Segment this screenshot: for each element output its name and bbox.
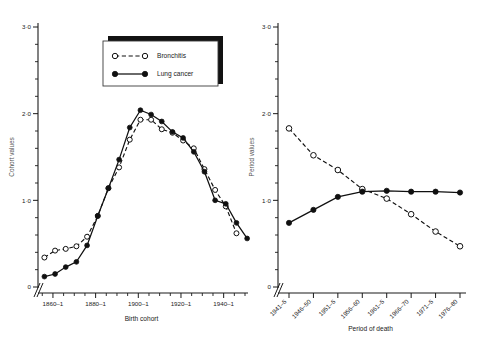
right-bronchitis-marker xyxy=(384,196,390,202)
left-x-tick-label: 1860–1 xyxy=(43,300,64,307)
left-y-tick-label: 2·0 xyxy=(22,110,32,117)
left-bronchitis-marker xyxy=(63,246,68,251)
right-lung-cancer-line xyxy=(289,191,460,223)
left-lung-cancer-marker xyxy=(42,274,47,279)
right-x-axis-title: Period of death xyxy=(348,325,393,332)
left-lung-cancer-marker xyxy=(245,236,250,241)
right-axis-break-mark xyxy=(274,283,280,297)
left-bronchitis-marker xyxy=(74,244,79,249)
left-lung-cancer-marker xyxy=(202,169,207,174)
right-y-tick-label: 1·0 xyxy=(262,197,272,204)
right-lung-cancer-marker xyxy=(311,207,316,212)
left-lung-cancer-marker xyxy=(53,272,58,277)
left-x-tick-label: 1880–1 xyxy=(85,300,106,307)
right-lung-cancer-marker xyxy=(433,189,438,194)
left-bronchitis-marker xyxy=(85,234,90,239)
left-lung-cancer-marker xyxy=(85,243,90,248)
left-bronchitis-marker xyxy=(213,187,218,192)
left-bronchitis-marker xyxy=(127,137,132,142)
left-lung-cancer-marker xyxy=(117,157,122,162)
left-bronchitis-line xyxy=(44,120,236,258)
right-bronchitis-marker xyxy=(433,229,439,235)
legend-marker-filled-circle xyxy=(112,71,117,76)
left-lung-cancer-marker xyxy=(170,129,175,134)
right-y-axis-title: Period values xyxy=(248,138,255,177)
left-lung-cancer-marker xyxy=(213,198,218,203)
left-lung-cancer-marker xyxy=(223,201,228,206)
left-x-axis-title: Birth cohort xyxy=(125,315,159,322)
left-bronchitis-marker xyxy=(42,255,47,260)
left-lung-cancer-marker xyxy=(63,265,68,270)
right-x-tick-label: 1941–5 xyxy=(268,297,288,317)
right-bronchitis-marker xyxy=(408,211,414,217)
left-lung-cancer-marker xyxy=(106,186,111,191)
right-x-tick-label: 1971–5 xyxy=(415,297,435,317)
left-lung-cancer-line xyxy=(44,110,247,276)
legend-box xyxy=(103,41,218,86)
left-bronchitis-marker xyxy=(138,117,143,122)
right-x-tick-label: 1951–5 xyxy=(317,297,337,317)
left-y-axis-title: Cohort values xyxy=(8,137,15,176)
right-x-tick-label: 1976–80 xyxy=(437,297,459,319)
left-bronchitis-marker xyxy=(159,127,164,132)
left-lung-cancer-marker xyxy=(191,149,196,154)
right-x-tick-label: 1961–5 xyxy=(366,297,386,317)
left-lung-cancer-marker xyxy=(159,119,164,124)
legend-marker-filled-circle xyxy=(142,71,147,76)
right-lung-cancer-marker xyxy=(360,189,365,194)
legend-marker-open-circle xyxy=(112,53,117,58)
left-x-tick-label: 1900–1 xyxy=(128,300,149,307)
left-lung-cancer-marker xyxy=(181,136,186,141)
right-x-tick-label: 1946–50 xyxy=(290,297,312,319)
right-lung-cancer-marker xyxy=(335,194,340,199)
right-bronchitis-marker xyxy=(311,152,317,158)
left-x-tick-label: 1940–1 xyxy=(213,300,234,307)
right-bronchitis-marker xyxy=(286,126,292,132)
left-lung-cancer-marker xyxy=(149,112,154,117)
right-lung-cancer-marker xyxy=(457,190,462,195)
left-axis-break-mark xyxy=(34,283,40,297)
right-x-tick-label: 1966–70 xyxy=(388,297,410,319)
left-lung-cancer-marker xyxy=(74,259,79,264)
left-bronchitis-marker xyxy=(234,231,239,236)
legend-label-lung-cancer: Lung cancer xyxy=(157,70,194,78)
right-bronchitis-marker xyxy=(457,243,463,249)
right-lung-cancer-marker xyxy=(409,189,414,194)
left-x-tick-label: 1920–1 xyxy=(171,300,192,307)
left-lung-cancer-marker xyxy=(138,108,143,113)
right-x-tick-label: 1956–60 xyxy=(339,297,361,319)
left-bronchitis-marker xyxy=(149,117,154,122)
legend-label-bronchitis: Bronchitis xyxy=(157,52,187,59)
left-lung-cancer-marker xyxy=(127,125,132,130)
right-y-tick-label: 3·0 xyxy=(262,23,272,30)
right-y-tick-label: 2·0 xyxy=(262,110,272,117)
left-y-tick-label: 3·0 xyxy=(22,23,32,30)
right-y-tick-label: 0 xyxy=(268,283,272,290)
left-y-tick-label: 0 xyxy=(28,283,32,290)
two-panel-line-chart: 01·02·03·0Cohort values1860–11880–11900–… xyxy=(0,0,481,342)
left-y-tick-label: 1·0 xyxy=(22,197,32,204)
left-lung-cancer-marker xyxy=(95,214,100,219)
right-lung-cancer-marker xyxy=(286,220,291,225)
right-bronchitis-marker xyxy=(335,167,341,173)
figure-container: 01·02·03·0Cohort values1860–11880–11900–… xyxy=(0,0,481,342)
right-lung-cancer-marker xyxy=(384,188,389,193)
legend-marker-open-circle xyxy=(142,53,147,58)
left-lung-cancer-marker xyxy=(234,220,239,225)
left-bronchitis-marker xyxy=(53,248,58,253)
